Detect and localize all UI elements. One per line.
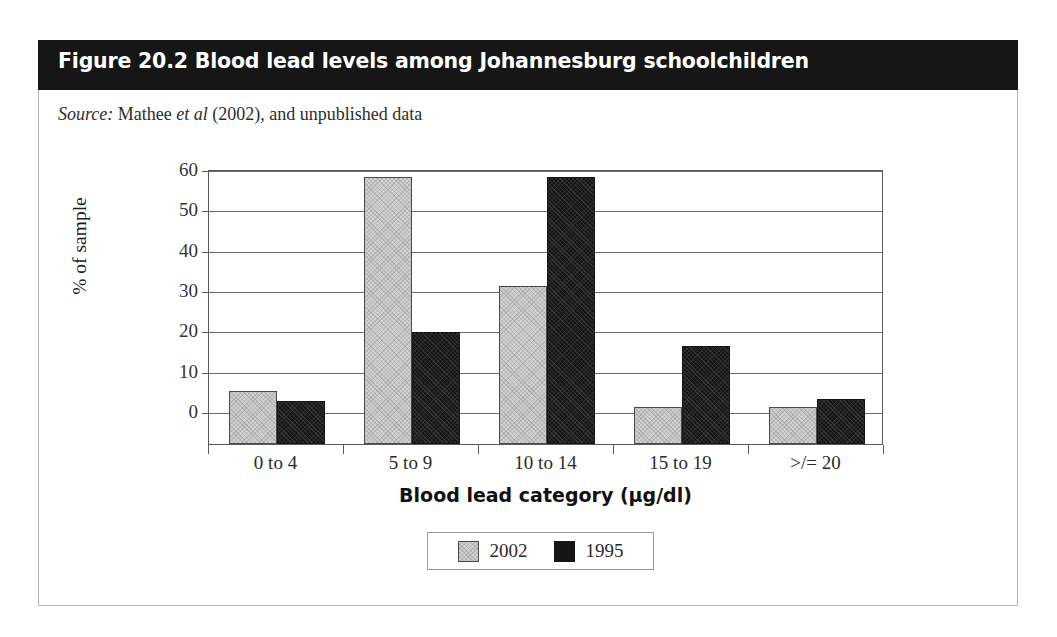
source-label: Source:	[58, 104, 113, 124]
figure-source: Source: Mathee et al (2002), and unpubli…	[58, 104, 422, 125]
source-author: Mathee	[113, 104, 176, 124]
figure-title-bar: Figure 20.2 Blood lead levels among Joha…	[38, 40, 1018, 90]
figure-root: Figure 20.2 Blood lead levels among Joha…	[0, 0, 1057, 637]
source-rest: (2002), and unpublished data	[208, 104, 422, 124]
source-etal: et al	[176, 104, 208, 124]
figure-title: Figure 20.2 Blood lead levels among Joha…	[58, 49, 809, 73]
